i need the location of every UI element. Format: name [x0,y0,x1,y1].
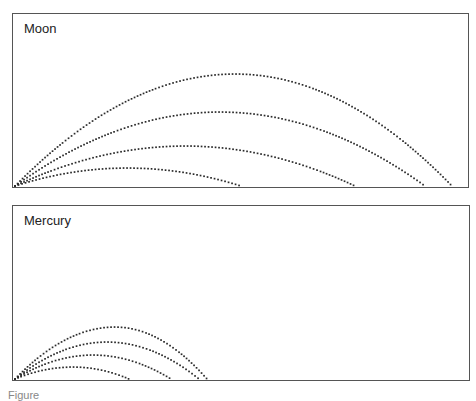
trajectory-dot [47,356,49,358]
trajectory-dot [169,146,171,148]
trajectory-dot [75,162,77,164]
trajectory-dot [165,169,167,171]
trajectory-dot [215,147,217,149]
trajectory-dot [267,155,269,157]
trajectory-dot [29,370,31,372]
trajectory-dot [93,354,95,356]
trajectory-dot [88,169,90,171]
trajectory-dot [377,155,379,157]
trajectory-dot [134,97,136,99]
trajectory-dot [169,83,171,85]
trajectory-dot [211,75,213,77]
trajectory-dot [107,111,109,113]
trajectory-dot [180,145,182,147]
trajectory-dot [27,173,29,175]
trajectory-dot [183,114,185,116]
trajectory-dot [191,373,193,375]
figure-caption: Figure [8,389,39,401]
trajectory-dot [339,99,341,101]
trajectory-dot [37,164,39,166]
trajectory-dot [53,354,55,356]
trajectory-dot [270,76,272,78]
trajectory-dot [295,162,297,164]
trajectory-dot [100,327,102,329]
trajectory-dot [155,352,157,354]
trajectory-dot [117,326,119,328]
trajectory-dot [152,147,154,149]
trajectory-dot [74,171,76,173]
trajectory-dot [110,109,112,111]
trajectory-dot [77,131,79,133]
trajectory-dot [67,338,69,340]
trajectory-dot [309,86,311,88]
trajectory-dot [173,115,175,117]
trajectory-dot [155,146,157,148]
trajectory-dot [98,116,100,118]
trajectory-dot [60,174,62,176]
trajectory-dot [185,369,187,371]
trajectory-dot [288,80,290,82]
trajectory-dot [43,353,45,355]
trajectory-dot [118,357,120,359]
trajectory-dot [44,157,46,159]
trajectory-dot [440,174,442,176]
trajectory-dot [183,355,185,357]
trajectory-dot [168,170,170,172]
trajectory-dot [62,142,64,144]
trajectory-dot [183,145,185,147]
trajectory-dot [132,360,134,362]
trajectory-dot [238,185,240,187]
trajectory-dot [131,98,133,100]
trajectory-dot [128,327,130,329]
trajectory-dot [42,159,44,161]
trajectory-dot [197,377,199,379]
trajectory-dot [137,95,139,97]
trajectory-dot [292,121,294,123]
trajectory-dot [157,371,159,373]
trajectory-dot [142,364,144,366]
trajectory-dot [35,363,37,365]
trajectory-dot [70,172,72,174]
trajectory-dot [327,94,329,96]
trajectory-dot [87,367,89,369]
trajectory-dot [159,118,161,120]
trajectory-dot [96,328,98,330]
trajectory-dot [57,146,59,148]
trajectory-dot [356,144,358,146]
trajectory-dot [402,140,404,142]
trajectory-dot [128,359,130,361]
trajectory-dot [59,367,61,369]
trajectory-dot [103,327,105,329]
trajectory-dot [97,342,99,344]
trajectory-dot [395,166,397,168]
trajectory-dot [180,114,182,116]
trajectory-dot [291,81,293,83]
trajectory-dot [83,355,85,357]
trajectory-dot [44,358,46,360]
trajectory-dot [23,179,25,181]
trajectory-dot [34,371,36,373]
trajectory-dot [335,177,337,179]
trajectory-dot [24,175,26,177]
trajectory-dot [83,367,85,369]
trajectory-dot [347,140,349,142]
trajectory-dot [61,166,63,168]
trajectory-dot [100,341,102,343]
trajectory-dot [218,147,220,149]
trajectory-dot [125,358,127,360]
trajectory-dot [29,367,31,369]
trajectory-dot [92,120,94,122]
trajectory-dot [89,158,91,160]
trajectory-dot [65,153,67,155]
trajectory-dot [228,182,230,184]
trajectory-dot [132,344,134,346]
trajectory-dot [26,180,28,182]
trajectory-dot [17,377,19,379]
trajectory-dot [260,153,262,155]
trajectory-dot [164,356,166,358]
trajectory-dot [142,331,144,333]
trajectory-dot [222,111,224,113]
trajectory-dot [374,154,376,156]
trajectory-dot [186,79,188,81]
trajectory-dot [44,172,46,174]
